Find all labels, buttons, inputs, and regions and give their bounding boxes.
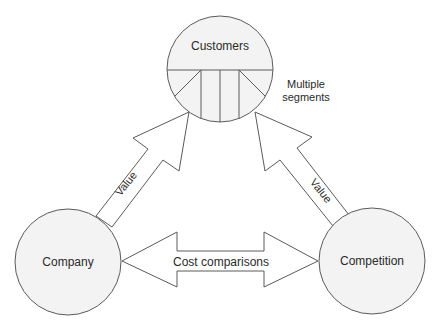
arrow-up-right-icon bbox=[96, 112, 189, 227]
value-arrow-right: Value bbox=[255, 112, 349, 226]
company-node: Company bbox=[15, 209, 121, 315]
customers-node: Customers bbox=[160, 16, 280, 125]
diagram-canvas: Customers Multiple segments Value Value … bbox=[0, 0, 442, 330]
segments-annotation-line2: segments bbox=[282, 91, 330, 103]
cost-comparisons-label: Cost comparisons bbox=[173, 255, 269, 269]
competition-label: Competition bbox=[340, 254, 404, 268]
diagram-svg: Customers Multiple segments Value Value … bbox=[0, 0, 442, 330]
arrow-up-left-icon bbox=[255, 112, 349, 226]
company-label: Company bbox=[42, 255, 93, 269]
value-arrow-left: Value bbox=[96, 112, 189, 227]
competition-node: Competition bbox=[319, 208, 425, 314]
customers-label: Customers bbox=[191, 39, 249, 53]
segments-annotation-line1: Multiple bbox=[287, 78, 325, 90]
cost-comparisons-arrow: Cost comparisons bbox=[122, 232, 318, 287]
